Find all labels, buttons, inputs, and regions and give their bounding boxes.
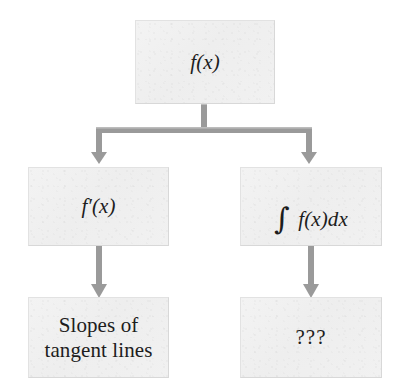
integrand-paren-close: ) <box>321 207 328 231</box>
node-integral[interactable]: ∫ f(x)dx <box>240 167 382 246</box>
node-unknown[interactable]: ??? <box>240 297 382 378</box>
node-derivative-label: f′(x) <box>81 194 115 219</box>
calculus-flowchart: f(x) f′(x) ∫ f(x)dx Slopes of tangent li… <box>0 0 398 392</box>
node-function-fx[interactable]: f(x) <box>135 20 275 104</box>
edge-derivative-to-slopes <box>78 244 120 300</box>
node-integral-label: ∫ f(x)dx <box>274 182 348 232</box>
integrand-differential: dx <box>328 207 348 231</box>
integrand-variable: x <box>311 207 320 231</box>
edge-integral-to-unknown <box>290 244 332 300</box>
node-integral-expression: f(x)dx <box>293 207 348 231</box>
node-derivative[interactable]: f′(x) <box>28 167 169 246</box>
integral-icon: ∫ <box>274 201 290 236</box>
node-slopes-of-tangent-lines[interactable]: Slopes of tangent lines <box>28 297 169 378</box>
node-unknown-label: ??? <box>296 325 327 350</box>
node-function-fx-label: f(x) <box>190 50 220 75</box>
node-slopes-label: Slopes of tangent lines <box>44 313 152 363</box>
